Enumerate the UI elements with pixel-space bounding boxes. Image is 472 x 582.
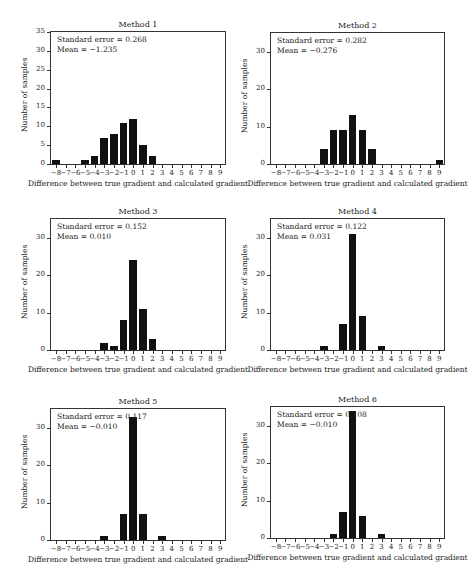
x-tick-mark	[382, 165, 383, 168]
x-tick-mark	[191, 351, 192, 354]
x-tick-label: 7	[415, 543, 425, 551]
standard-error-label: Standard error = 0.268	[57, 35, 147, 45]
x-tick-label: −1	[119, 355, 129, 363]
stats-annotation: Standard error = 0.268Mean = −1.235	[57, 35, 147, 55]
x-tick-label: −7	[280, 355, 290, 363]
histogram-bar	[378, 534, 385, 538]
x-tick-mark	[95, 541, 96, 544]
stats-annotation: Standard error = 0.122Mean = 0.031	[277, 222, 367, 242]
x-tick-mark	[295, 351, 296, 354]
x-tick-mark	[211, 541, 212, 544]
x-tick-mark	[430, 539, 431, 542]
standard-error-label: Standard error = 0.152	[57, 222, 147, 232]
x-tick-label: −4	[90, 169, 100, 177]
x-tick-label: 2	[148, 169, 158, 177]
y-tick-mark	[47, 275, 50, 276]
x-tick-mark	[153, 165, 154, 168]
x-tick-label: −7	[280, 543, 290, 551]
x-tick-mark	[75, 541, 76, 544]
x-tick-mark	[85, 541, 86, 544]
y-tick-mark	[47, 145, 50, 146]
x-tick-label: −2	[328, 543, 338, 551]
x-tick-label: 3	[377, 355, 387, 363]
chart-title: Method 2	[270, 21, 445, 30]
x-tick-mark	[353, 539, 354, 542]
x-tick-label: 2	[148, 355, 158, 363]
x-axis-label: Difference between true gradient and cal…	[240, 179, 472, 188]
y-tick-mark	[47, 107, 50, 108]
y-axis-label: Number of samples	[240, 432, 249, 506]
histogram-bar	[129, 260, 136, 350]
histogram-bar	[359, 130, 366, 164]
x-tick-mark	[56, 351, 57, 354]
y-tick-label: 30	[31, 423, 45, 431]
x-tick-label: −6	[290, 543, 300, 551]
x-tick-mark	[372, 539, 373, 542]
x-tick-label: 8	[425, 543, 435, 551]
standard-error-label: Standard error = 0.122	[277, 222, 367, 232]
x-tick-label: −4	[90, 355, 100, 363]
x-tick-label: 9	[215, 545, 225, 553]
x-tick-label: 6	[405, 355, 415, 363]
histogram-bar	[91, 156, 98, 164]
x-tick-mark	[201, 165, 202, 168]
y-tick-label: 0	[31, 159, 45, 167]
x-axis-label: Difference between true gradient and cal…	[20, 555, 256, 564]
x-tick-mark	[66, 165, 67, 168]
x-tick-mark	[401, 165, 402, 168]
x-tick-label: 0	[128, 355, 138, 363]
y-tick-mark	[267, 52, 270, 53]
x-tick-mark	[75, 165, 76, 168]
y-tick-label: 20	[251, 84, 265, 92]
x-tick-mark	[114, 351, 115, 354]
x-tick-label: −3	[99, 545, 109, 553]
mean-label: Mean = 0.031	[277, 232, 367, 242]
mean-label: Mean = −0.010	[57, 422, 147, 432]
x-tick-label: −1	[119, 169, 129, 177]
y-tick-mark	[267, 313, 270, 314]
plot-area: Standard error = 0.108Mean = −0.010	[270, 406, 445, 539]
y-tick-label: 10	[31, 121, 45, 129]
x-tick-label: 8	[206, 169, 216, 177]
x-tick-mark	[391, 351, 392, 354]
y-tick-mark	[47, 465, 50, 466]
x-tick-mark	[305, 351, 306, 354]
standard-error-label: Standard error = 0.117	[57, 412, 147, 422]
histogram-bar	[320, 149, 327, 164]
histogram-bar	[339, 512, 346, 538]
x-tick-mark	[439, 351, 440, 354]
x-tick-label: −5	[80, 545, 90, 553]
x-tick-label: 7	[415, 355, 425, 363]
x-tick-label: 2	[367, 169, 377, 177]
x-tick-mark	[410, 165, 411, 168]
y-tick-label: 10	[31, 498, 45, 506]
x-tick-label: 5	[177, 169, 187, 177]
y-tick-label: 30	[31, 233, 45, 241]
y-tick-label: 20	[31, 270, 45, 278]
x-tick-mark	[305, 165, 306, 168]
y-tick-label: 20	[31, 460, 45, 468]
x-tick-mark	[143, 351, 144, 354]
y-axis-label: Number of samples	[20, 434, 29, 508]
x-tick-mark	[295, 165, 296, 168]
x-tick-mark	[276, 539, 277, 542]
x-tick-mark	[133, 351, 134, 354]
x-axis-label: Difference between true gradient and cal…	[240, 553, 472, 562]
y-tick-label: 20	[251, 458, 265, 466]
x-tick-mark	[410, 539, 411, 542]
x-tick-mark	[276, 351, 277, 354]
histogram-bar	[349, 115, 356, 164]
y-tick-label: 20	[31, 84, 45, 92]
x-tick-label: 1	[138, 355, 148, 363]
histogram-bar	[100, 343, 107, 350]
x-tick-mark	[85, 165, 86, 168]
x-tick-label: 6	[186, 545, 196, 553]
x-tick-label: 1	[357, 355, 367, 363]
x-tick-mark	[191, 165, 192, 168]
x-tick-label: −2	[109, 355, 119, 363]
histogram-bar	[378, 346, 385, 350]
x-tick-label: 0	[128, 169, 138, 177]
x-tick-mark	[353, 165, 354, 168]
mean-label: Mean = 0.010	[57, 232, 147, 242]
x-tick-label: 4	[386, 355, 396, 363]
